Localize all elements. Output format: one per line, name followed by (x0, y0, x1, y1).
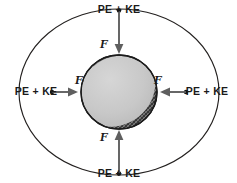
force-arrow-right (160, 88, 188, 97)
energy-label-bottom: PE + KE (98, 167, 141, 179)
arrow-head-left (68, 88, 78, 97)
force-label-top: F (99, 36, 109, 51)
force-label-left: F (74, 72, 84, 87)
arrow-head-bottom (115, 130, 124, 140)
force-label-bottom: F (99, 129, 109, 144)
energy-label-left: PE + KE (15, 85, 58, 97)
arrow-head-top (115, 44, 124, 54)
central-mass-sphere (81, 55, 164, 139)
force-label-right: F (153, 72, 163, 87)
arrow-head-right (160, 88, 170, 97)
force-arrow-top (115, 8, 124, 54)
diagram-canvas: PE + KE PE + KE PE + KE PE + KE F F F F (0, 0, 237, 183)
energy-label-right: PE + KE (186, 85, 229, 97)
energy-label-top: PE + KE (98, 3, 141, 15)
physics-force-diagram: PE + KE PE + KE PE + KE PE + KE F F F F (0, 0, 237, 183)
